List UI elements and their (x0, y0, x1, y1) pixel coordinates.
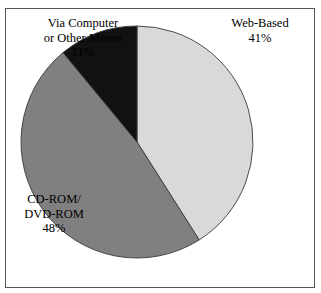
pie-label-via-computer: Via Computer or Other Means 11% (18, 16, 148, 60)
pie-label-cdrom: CD-ROM/ DVD-ROM 48% (2, 192, 106, 236)
pie-label-cdrom-value: 48% (2, 221, 106, 236)
pie-label-web-based-value: 41% (205, 31, 315, 46)
pie-label-cdrom-line1: CD-ROM/ (2, 192, 106, 207)
pie-label-cdrom-line2: DVD-ROM (2, 207, 106, 222)
pie-label-web-based-line1: Web-Based (205, 16, 315, 31)
pie-label-web-based: Web-Based 41% (205, 16, 315, 45)
pie-label-via-computer-value: 11% (18, 45, 148, 60)
figure-root: Via Computer or Other Means 11% Web-Base… (0, 0, 321, 293)
pie-label-via-computer-line1: Via Computer (18, 16, 148, 31)
pie-label-via-computer-line2: or Other Means (18, 31, 148, 46)
